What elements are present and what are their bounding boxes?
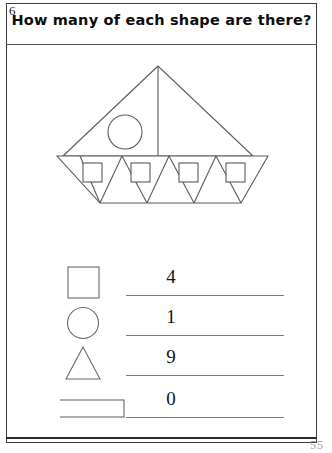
answer-value[interactable]: 1	[126, 304, 216, 330]
answer-list: 4 1 9 0	[6, 258, 317, 438]
sail-circle	[108, 115, 142, 149]
hull-square-2	[131, 163, 150, 182]
sailboat-figure	[55, 60, 270, 210]
hull-square-3	[179, 163, 198, 182]
square-outline-icon	[60, 264, 116, 304]
page-title: How many of each shape are there?	[6, 12, 317, 28]
answer-value[interactable]: 9	[126, 344, 216, 370]
worksheet-header: 6 How many of each shape are there?	[6, 3, 317, 45]
sailboat-svg	[55, 60, 270, 210]
page-number: 55	[310, 439, 324, 451]
answer-row: 4	[6, 264, 317, 304]
answer-row: 1	[6, 304, 317, 344]
triangle-outline-icon	[60, 344, 116, 384]
answer-row: 9	[6, 344, 317, 384]
answer-write-line	[126, 295, 284, 296]
hull-square-1	[83, 163, 102, 182]
hull-square-4	[226, 163, 245, 182]
answer-value[interactable]: 4	[126, 264, 216, 290]
answer-row: 0	[6, 386, 317, 426]
page-bottom-rule	[6, 437, 317, 439]
answer-value[interactable]: 0	[126, 386, 216, 412]
answer-write-line	[126, 335, 284, 336]
answer-write-line	[126, 417, 284, 418]
circle-outline-icon	[60, 304, 116, 344]
answer-write-line	[126, 375, 284, 376]
